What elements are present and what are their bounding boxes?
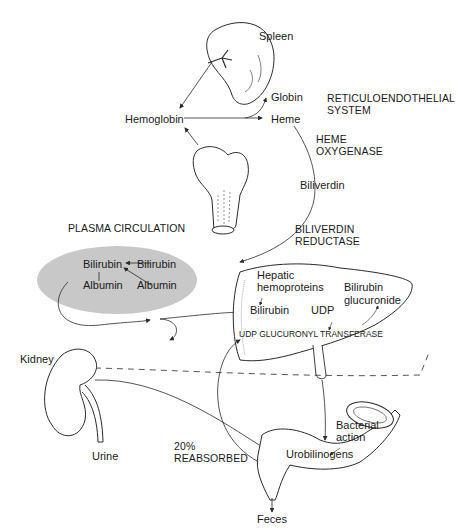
label-plasma-albumin-bound: Albumin: [83, 279, 123, 291]
label-bacterial-2: action: [336, 431, 365, 443]
label-feces: Feces: [257, 513, 287, 525]
label-plasma-bilirubin-bound: Bilirubin: [83, 258, 122, 270]
label-kidney: Kidney: [20, 353, 54, 365]
label-reticuloendothelial-1: RETICULOENDOTHELIAL: [327, 92, 455, 104]
label-heme-oxygenase-1: HEME: [316, 133, 347, 145]
label-liver-bilirubin: Bilirubin: [250, 304, 289, 316]
bone-marrow-icon: [193, 147, 248, 234]
label-hepatic-1: Hepatic: [257, 269, 294, 281]
label-plasma-bilirubin-free: Bilirubin: [137, 258, 176, 270]
label-biliverdin-reductase-2: REDUCTASE: [295, 235, 360, 247]
label-plasma-circulation: PLASMA CIRCULATION: [68, 222, 185, 234]
label-reabsorbed-pct: 20%: [174, 440, 195, 452]
label-glucuronide-2: glucuronide: [344, 294, 401, 306]
label-reticuloendothelial-2: SYSTEM: [327, 104, 371, 116]
label-urobilinogens: Urobilinogens: [286, 448, 353, 460]
label-biliverdin-reductase-1: BILIVERDIN: [295, 223, 354, 235]
label-hepatic-2: hemoproteins: [257, 281, 324, 293]
label-spleen: Spleen: [259, 30, 293, 42]
label-heme-oxygenase-2: OXYGENASE: [316, 145, 383, 157]
label-udp-transferase: UDP GLUCURONYL TRANSFERASE: [239, 328, 383, 340]
label-globin: Globin: [271, 91, 303, 103]
label-hemoglobin: Hemoglobin: [125, 113, 184, 125]
label-bacterial-1: Bacterial: [336, 419, 379, 431]
label-urine: Urine: [92, 450, 118, 462]
label-heme: Heme: [271, 113, 300, 125]
label-glucuronide-1: Bilirubin: [344, 281, 383, 293]
label-plasma-albumin-free: Albumin: [137, 279, 177, 291]
label-udp: UDP: [311, 304, 334, 316]
label-reabsorbed: REABSORBED: [174, 452, 248, 464]
label-biliverdin: Biliverdin: [300, 179, 345, 191]
